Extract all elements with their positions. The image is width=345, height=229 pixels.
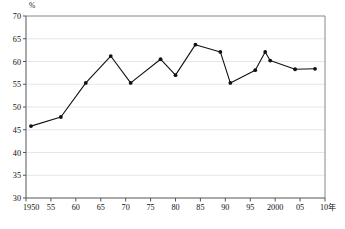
data-point-marker <box>59 115 63 119</box>
x-axis-tick-label: 10年 <box>320 202 336 212</box>
data-point-markers <box>29 43 317 128</box>
line-chart: % 303540455055606570 1950556065707580859… <box>0 0 345 229</box>
data-series-line <box>31 45 315 126</box>
data-point-marker <box>253 68 257 72</box>
y-axis-tick-label: 65 <box>13 35 21 44</box>
y-axis: 303540455055606570 <box>13 12 325 203</box>
x-axis-tick-label: 75 <box>146 203 154 212</box>
y-axis-tick-label: 35 <box>13 171 21 180</box>
y-axis-tick-label: 60 <box>13 58 21 67</box>
data-point-marker <box>159 57 163 61</box>
chart-plot-area: 303540455055606570 195055606570758085909… <box>0 0 345 229</box>
y-axis-tick-label: 30 <box>13 194 21 203</box>
x-axis-tick-label: 85 <box>196 203 204 212</box>
data-point-marker <box>194 43 198 47</box>
data-point-marker <box>109 54 113 58</box>
x-axis-tick-label: 1950 <box>23 203 39 212</box>
grid-lines <box>26 16 325 175</box>
x-axis: 195055606570758085909520000510年 <box>23 198 336 212</box>
data-point-marker <box>129 81 133 85</box>
data-point-marker <box>293 67 297 71</box>
x-axis-tick-label: 60 <box>72 203 80 212</box>
y-axis-tick-label: 55 <box>13 80 21 89</box>
data-point-marker <box>84 81 88 85</box>
x-axis-tick-label: 05 <box>296 203 304 212</box>
y-axis-tick-label: 50 <box>13 103 21 112</box>
y-axis-tick-label: 70 <box>13 12 21 21</box>
x-axis-tick-label: 80 <box>171 203 179 212</box>
x-axis-tick-label: 70 <box>122 203 130 212</box>
data-point-marker <box>313 67 317 71</box>
x-axis-tick-label: 90 <box>221 203 229 212</box>
x-axis-tick-label: 95 <box>246 203 254 212</box>
cropped-caption-artifact <box>60 221 310 226</box>
data-point-marker <box>29 124 33 128</box>
data-point-marker <box>228 81 232 85</box>
data-point-marker <box>174 73 178 77</box>
y-axis-tick-label: 45 <box>13 126 21 135</box>
x-axis-tick-label: 2000 <box>267 203 283 212</box>
x-axis-tick-label: 55 <box>47 203 55 212</box>
data-point-marker <box>218 50 222 54</box>
data-point-marker <box>268 59 272 63</box>
x-axis-tick-label: 65 <box>97 203 105 212</box>
y-axis-tick-label: 40 <box>13 149 21 158</box>
data-point-marker <box>263 50 267 54</box>
